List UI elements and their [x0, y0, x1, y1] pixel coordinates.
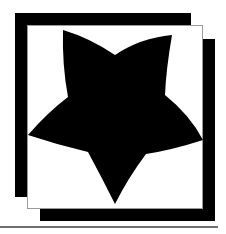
- star-icon: [0, 0, 226, 234]
- baseline-rule: [0, 226, 218, 228]
